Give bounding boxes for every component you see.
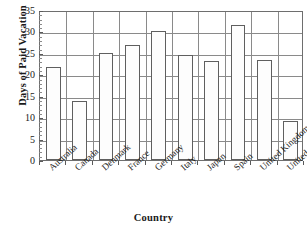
y-tick-minor [39,71,42,72]
y-tick-minor [39,148,42,149]
y-tick-minor [39,58,42,59]
y-tick-major [39,97,43,98]
y-tick-minor [39,144,42,145]
y-tick-minor [39,110,42,111]
y-tick-minor [39,24,42,25]
y-tick-minor [39,131,42,132]
y-tick-major [39,11,43,12]
y-tick-major [39,140,43,141]
y-tick-label: 35 [9,6,35,16]
y-tick-minor [39,152,42,153]
x-tick [39,161,40,165]
y-tick-label: 15 [9,92,35,102]
bar [204,61,219,160]
y-tick-label: 0 [9,156,35,166]
y-tick-minor [39,127,42,128]
x-tick [277,161,278,165]
y-tick-minor [39,50,42,51]
bar [46,67,61,160]
cropped-title-remnant [0,0,307,3]
bar [99,53,114,160]
y-tick-label: 25 [9,49,35,59]
y-tick-minor [39,92,42,93]
x-tick [224,161,225,165]
x-tick [145,161,146,165]
y-tick-minor [39,114,42,115]
y-tick-minor [39,15,42,16]
bar-series [40,12,302,160]
y-tick-minor [39,84,42,85]
y-tick-label: 5 [9,135,35,145]
y-tick-minor [39,20,42,21]
y-tick-label: 20 [9,70,35,80]
y-tick-minor [39,101,42,102]
y-tick-minor [39,135,42,136]
y-tick-minor [39,67,42,68]
bar [151,31,166,160]
y-tick-minor [39,41,42,42]
y-tick-label: 30 [9,27,35,37]
bar [257,60,272,160]
y-tick-major [39,75,43,76]
y-tick-minor [39,157,42,158]
plot-area [39,11,303,161]
x-axis-title: Country [0,212,307,223]
y-tick-minor [39,28,42,29]
y-tick-minor [39,105,42,106]
y-tick-minor [39,88,42,89]
y-tick-minor [39,45,42,46]
y-tick-label: 10 [9,113,35,123]
x-tick [92,161,93,165]
bar [231,25,246,160]
y-tick-major [39,54,43,55]
y-tick-minor [39,62,42,63]
bar-chart: Days of Paid Vacation 05101520253035 Aus… [0,0,307,239]
y-tick-minor [39,122,42,123]
y-tick-major [39,32,43,33]
y-tick-major [39,118,43,119]
y-tick-minor [39,37,42,38]
y-tick-minor [39,80,42,81]
